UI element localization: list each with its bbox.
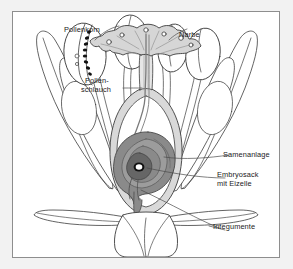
- diagram-frame: Pollenkorn Narbe Pollen- schlauch Samena…: [12, 11, 280, 258]
- label-pollenschlauch-line2: schlauch: [81, 86, 111, 95]
- label-embryosack-line2: mit Eizelle: [217, 180, 252, 189]
- label-pollenkorn: Pollenkorn: [64, 26, 100, 35]
- receptacle: [114, 212, 177, 257]
- egg-cell: [134, 162, 145, 171]
- label-samenanlage: Samenanlage: [223, 151, 270, 160]
- sepal-left: [34, 210, 131, 226]
- diagram-page: Pollenkorn Narbe Pollen- schlauch Samena…: [0, 0, 293, 269]
- label-narbe: Narbe: [179, 31, 200, 40]
- flower-cross-section-illustration: [13, 12, 279, 257]
- label-integumente: Integumente: [213, 223, 255, 232]
